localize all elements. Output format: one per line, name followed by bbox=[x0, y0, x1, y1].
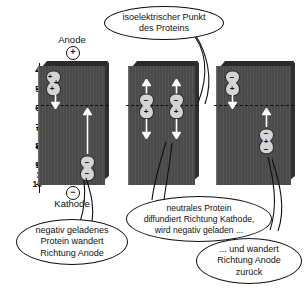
callout-pi-line1: isoelektrischer Punkt bbox=[118, 12, 209, 24]
callout-migrates-back: ... und wandert Richtung Anode zurück bbox=[196, 238, 302, 284]
callout-left-line1: negativ geladenes bbox=[31, 225, 112, 237]
callout-middle-line3: wird negativ geladen ... bbox=[140, 225, 259, 236]
callout-left-line2: Protein wandert bbox=[31, 236, 112, 248]
callout-middle-line1: neutrales Protein bbox=[140, 203, 259, 214]
figure-canvas: pH-Gradient 4 5 6 7 8 9 10 bbox=[0, 0, 304, 288]
callout-negative-protein: negativ geladenes Protein wandert Richtu… bbox=[16, 219, 128, 265]
callout-left-line3: Richtung Anode bbox=[31, 248, 112, 260]
callout-middle-line2: diffundiert Richtung Kathode, bbox=[140, 214, 259, 225]
callout-right-line1: ... und wandert bbox=[213, 244, 285, 256]
callout-pi-line2: des Proteins bbox=[118, 23, 209, 35]
callout-right-line3: zurück bbox=[213, 267, 285, 279]
callout-right-line2: Richtung Anode bbox=[213, 255, 285, 267]
callout-neutral-protein: neutrales Protein diffundiert Richtung K… bbox=[126, 196, 272, 242]
callout-isoelectric-point: isoelektrischer Punkt des Proteins bbox=[104, 6, 224, 40]
